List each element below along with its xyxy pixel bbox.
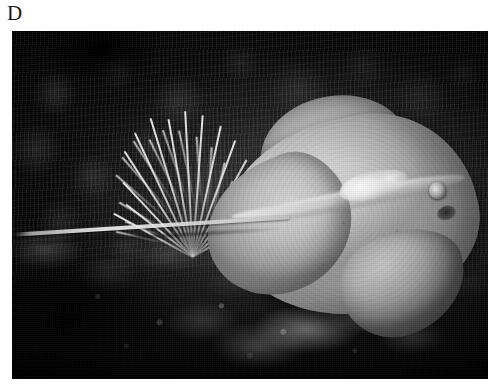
dark-upper-right-mass	[12, 31, 155, 87]
stingray-tail	[15, 215, 291, 236]
underwater-stingray-photograph	[12, 31, 488, 379]
figure-panel: D	[0, 0, 496, 386]
panel-label: D	[7, 1, 23, 25]
